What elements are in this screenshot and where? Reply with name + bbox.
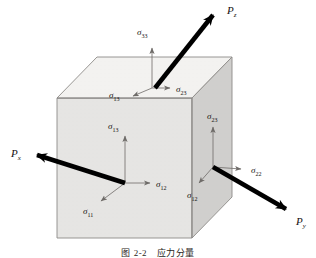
stress-label-sigma-33: σ33 xyxy=(137,27,147,39)
force-label-px: Px xyxy=(10,147,22,162)
stress-cube-diagram: Pz Px Py σ33 σ13 σ23 σ13 σ xyxy=(0,0,316,258)
force-label-pz: Pz xyxy=(226,4,237,19)
force-label-py: Py xyxy=(295,215,307,230)
stress-label-sigma-22: σ22 xyxy=(251,165,261,177)
figure-caption: 图 2-2 应力分量 xyxy=(0,248,316,258)
stress-cube-figure: Pz Px Py σ33 σ13 σ23 σ13 σ xyxy=(0,0,316,258)
